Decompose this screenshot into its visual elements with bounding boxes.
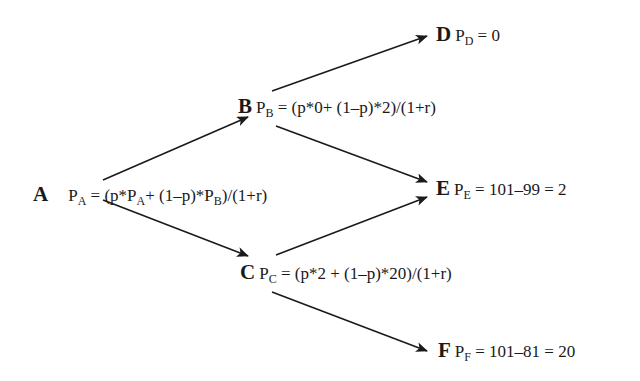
- node-f: FPF = 101–81 = 20: [438, 340, 575, 362]
- node-d: DPD = 0: [436, 24, 500, 46]
- node-e-formula: = 101–99 = 2: [471, 180, 567, 199]
- edge-c-e: [276, 197, 427, 255]
- edge-c-f: [272, 292, 427, 351]
- node-c-formula: = (p*2 + (1–p)*20)/(1+r): [277, 264, 452, 283]
- node-a-letter: A: [33, 182, 48, 206]
- node-d-formula: = 0: [473, 26, 500, 45]
- edge-a-b: [103, 117, 248, 180]
- node-b-formula: = (p*0+ (1–p)*2)/(1+r): [274, 98, 436, 117]
- node-d-letter: D: [436, 22, 451, 46]
- node-b: BPB = (p*0+ (1–p)*2)/(1+r): [238, 96, 436, 118]
- node-f-letter: F: [438, 338, 451, 362]
- node-a: APA = (p*PA+ (1–p)*PB)/(1+r): [33, 184, 267, 206]
- node-a-p: P: [68, 186, 77, 205]
- edge-a-c: [103, 200, 248, 256]
- node-e-letter: E: [436, 176, 450, 200]
- edge-b-e: [276, 126, 427, 182]
- node-b-letter: B: [238, 94, 252, 118]
- edge-b-d: [272, 36, 427, 91]
- node-e: EPE = 101–99 = 2: [436, 178, 567, 200]
- node-c-letter: C: [240, 260, 255, 284]
- node-f-formula: = 101–81 = 20: [471, 342, 575, 361]
- node-c: CPC = (p*2 + (1–p)*20)/(1+r): [240, 262, 452, 284]
- node-a-formula: = (p*P: [86, 186, 136, 205]
